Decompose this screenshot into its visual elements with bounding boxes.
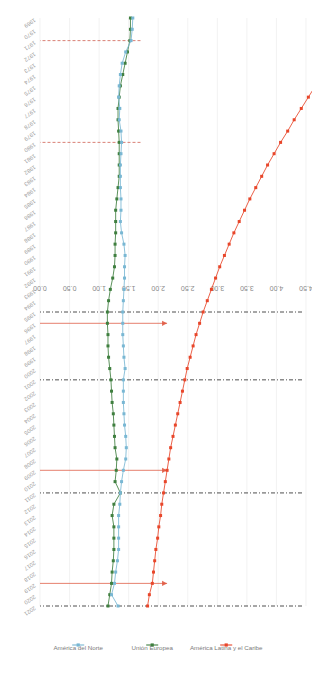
series-marker <box>122 378 125 381</box>
series-marker <box>122 356 125 359</box>
value-axis-tick-label: 4.50 <box>299 285 312 292</box>
series-marker <box>179 401 182 404</box>
series-marker <box>114 231 117 234</box>
year-axis-label: 1980 <box>23 142 37 154</box>
series-marker <box>119 491 122 494</box>
year-axis-label: 1997 <box>23 334 37 346</box>
series-marker <box>300 107 303 110</box>
series-marker <box>112 424 115 427</box>
series-marker <box>113 435 116 438</box>
year-axis-label: 1990 <box>23 255 37 267</box>
series-marker <box>192 344 195 347</box>
year-axis-label: 1973 <box>23 62 37 74</box>
series-marker <box>113 265 116 268</box>
year-axis-label: 2013 <box>23 515 37 527</box>
year-axis-label: 1976 <box>23 96 37 108</box>
series-marker <box>116 559 119 562</box>
series-marker <box>112 537 115 540</box>
series-marker <box>166 469 169 472</box>
rotated-figure-wrapper: 4.504.003.503.002.502.001.501.000.500.00… <box>0 0 312 692</box>
year-axis-label: 2012 <box>23 503 37 515</box>
series-marker <box>113 582 116 585</box>
annotation-arrows <box>40 321 167 586</box>
series-marker <box>131 28 134 31</box>
series-marker <box>122 288 125 291</box>
year-axis-label: 1969 <box>23 17 37 29</box>
series-marker <box>109 378 112 381</box>
chart-svg: 4.504.003.503.002.502.001.501.000.500.00… <box>0 0 312 692</box>
year-axis-label: 2001 <box>23 379 37 391</box>
series-marker <box>123 424 126 427</box>
annotation-arrow-head <box>162 321 167 326</box>
series-marker <box>122 344 125 347</box>
series-marker <box>153 559 156 562</box>
series-marker <box>115 458 118 461</box>
series-marker <box>109 288 112 291</box>
year-axis-label: 1972 <box>23 51 37 63</box>
year-axis-label: 2000 <box>23 368 37 380</box>
year-axis-label: 2010 <box>23 481 37 493</box>
series-marker <box>159 514 162 517</box>
series-marker <box>110 390 113 393</box>
series-marker <box>169 446 172 449</box>
series-marker <box>114 209 117 212</box>
series-marker <box>131 17 134 20</box>
series-marker <box>121 322 124 325</box>
series-marker <box>122 401 125 404</box>
series-marker <box>186 367 189 370</box>
series-marker <box>111 277 114 280</box>
series-marker <box>112 503 115 506</box>
series-marker <box>112 548 115 551</box>
year-axis-label: 1975 <box>23 85 37 97</box>
series-marker <box>189 356 192 359</box>
series-marker <box>110 582 113 585</box>
series-marker <box>232 231 235 234</box>
series-marker <box>164 480 167 483</box>
series-marker <box>114 220 117 223</box>
year-axis-label: 1994 <box>23 300 37 312</box>
series-marker <box>202 311 205 314</box>
series-marker <box>152 571 155 574</box>
series-marker <box>106 344 109 347</box>
series-marker <box>214 277 217 280</box>
series-marker <box>119 197 122 200</box>
year-axis-label: 2021 <box>23 605 37 617</box>
series-marker <box>119 130 122 133</box>
series-marker <box>266 164 269 167</box>
year-axis-label: 1996 <box>23 322 37 334</box>
series-marker <box>157 525 160 528</box>
series-marker <box>111 571 114 574</box>
year-axis-label: 2017 <box>23 560 37 572</box>
series-marker <box>254 186 257 189</box>
series-marker <box>223 254 226 257</box>
series-marker <box>120 231 123 234</box>
series-marker <box>151 582 154 585</box>
series-marker <box>156 537 159 540</box>
series-marker <box>195 333 198 336</box>
series-marker <box>106 311 109 314</box>
year-axis-label: 1989 <box>23 243 37 255</box>
series-marker <box>124 458 127 461</box>
series-marker <box>120 480 123 483</box>
series-marker <box>117 514 120 517</box>
series-marker <box>273 152 276 155</box>
year-axis-label: 1993 <box>23 289 37 301</box>
series-marker <box>106 322 109 325</box>
year-axis-label: 1970 <box>23 28 37 40</box>
series-marker <box>121 311 124 314</box>
series-marker <box>120 141 123 144</box>
year-axis-label: 2003 <box>23 402 37 414</box>
series-marker <box>111 401 114 404</box>
series-marker <box>130 39 133 42</box>
year-axis-label: 2019 <box>23 583 37 595</box>
year-axis-label: 2011 <box>24 492 37 504</box>
legend-label: América Latina y el Caribe <box>190 644 263 651</box>
series-marker <box>167 458 170 461</box>
series-marker <box>118 107 121 110</box>
year-axis-label: 1998 <box>23 345 37 357</box>
series-marker <box>119 186 122 189</box>
series-marker <box>206 299 209 302</box>
series-marker <box>174 424 177 427</box>
series-marker <box>114 571 117 574</box>
series-marker <box>110 593 113 596</box>
